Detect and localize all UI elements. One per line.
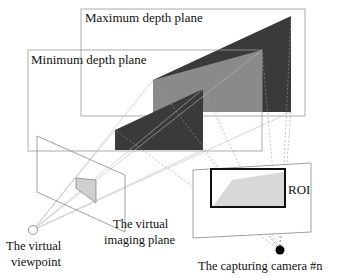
- virtual-imaging-plane-label-line2: imaging plane: [104, 233, 176, 247]
- minimum-depth-plane-label: Minimum depth plane: [31, 52, 147, 67]
- depth-plane-diagram: Maximum depth plane Minimum depth plane …: [0, 0, 337, 278]
- capturing-camera-label: The capturing camera #n: [198, 259, 323, 273]
- virtual-viewpoint-label-line2: viewpoint: [11, 255, 62, 269]
- maximum-depth-plane-label: Maximum depth plane: [85, 10, 203, 25]
- roi-label: ROI: [288, 182, 310, 197]
- virtual-viewpoint: [29, 226, 38, 235]
- capturing-camera: [276, 246, 285, 255]
- virtual-viewpoint-label-line1: The virtual: [6, 239, 62, 253]
- virtual-imaging-plane-label-line1: The virtual: [113, 217, 169, 231]
- virtual-image-patch: [76, 178, 96, 203]
